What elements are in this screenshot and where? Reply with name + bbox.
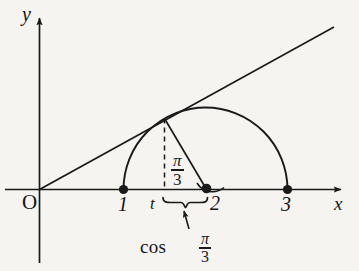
brace-pointer-arrow xyxy=(184,211,189,229)
cos-label-fraction: π 3 xyxy=(199,231,211,265)
cos-label-numerator: π xyxy=(199,231,211,247)
figure-canvas xyxy=(0,0,359,271)
geometry-figure: y x O 1 t 2 3 π 3 cos π 3 xyxy=(0,0,359,271)
tick-label-1: 1 xyxy=(118,194,128,214)
ray-from-origin xyxy=(40,27,335,190)
tick-label-2: 2 xyxy=(210,193,220,213)
angle-label-numerator: π xyxy=(171,152,184,169)
underbrace xyxy=(163,198,208,208)
angle-label-pi-over-3: π 3 xyxy=(171,152,184,188)
tick-label-3: 3 xyxy=(281,194,291,214)
y-axis-label: y xyxy=(22,4,31,24)
cos-label-denominator: 3 xyxy=(199,249,211,265)
x-axis-label: x xyxy=(334,194,342,213)
tick-label-t: t xyxy=(150,195,155,212)
angle-label-denominator: 3 xyxy=(171,171,184,188)
cos-label-text: cos xyxy=(140,236,166,258)
semicircle-arc xyxy=(124,108,288,190)
origin-label: O xyxy=(22,192,37,213)
